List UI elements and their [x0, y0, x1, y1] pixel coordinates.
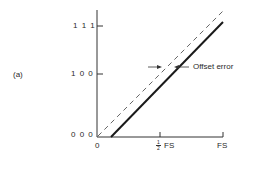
- x-tick-label-zero: 0: [95, 141, 100, 150]
- ideal-transfer-line: [98, 10, 224, 136]
- offset-error-annotation: Offset error: [193, 62, 233, 71]
- x-tick-label-fs: FS: [217, 141, 227, 150]
- panel-label: (a): [13, 70, 23, 79]
- y-tick-label-100: 1 0 0: [71, 69, 94, 78]
- y-tick-label-000: 0 0 0: [71, 130, 94, 139]
- x-tick-fraction-den: 2: [156, 146, 161, 151]
- offset-arrow-left-head: [157, 65, 162, 69]
- actual-transfer-line: [111, 22, 223, 137]
- x-tick-label-half-fs: FS: [164, 141, 174, 150]
- y-tick-label-111: 1 1 1: [73, 21, 96, 30]
